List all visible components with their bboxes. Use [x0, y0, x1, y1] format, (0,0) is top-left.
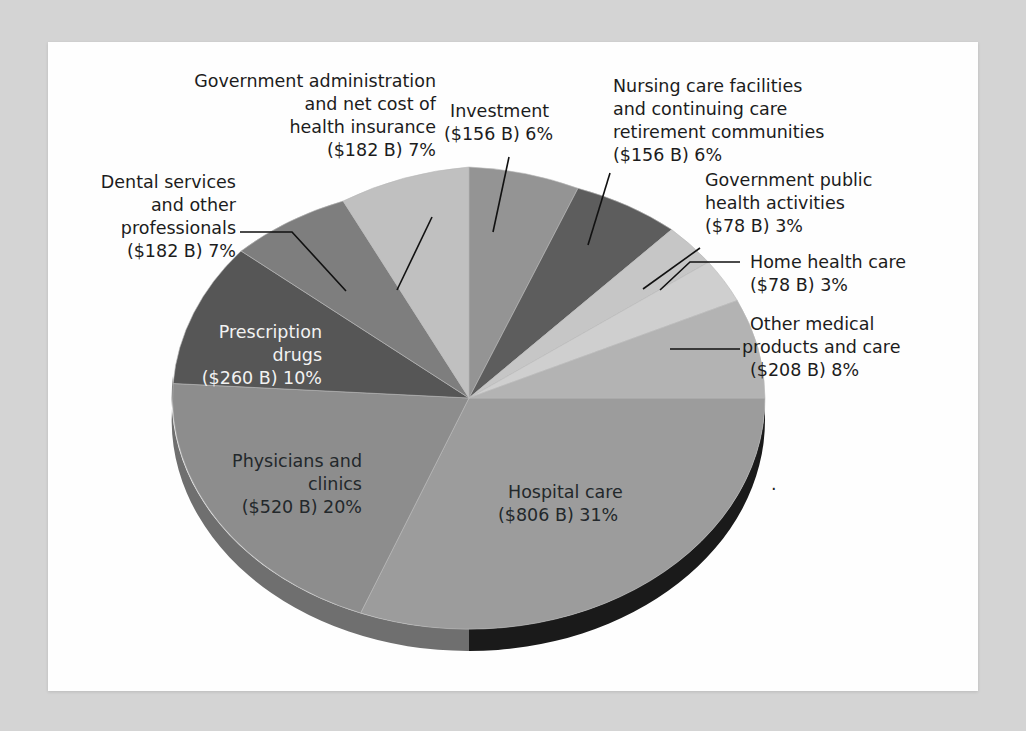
label-government-administration-line1: Government administration [194, 71, 436, 91]
figure-canvas: Government administration and net cost o… [0, 0, 1026, 731]
label-hospital-care-line1: Hospital care [508, 482, 623, 502]
label-government-public-health-line2: health activities [705, 193, 845, 213]
label-government-public-health-line3: ($78 B) 3% [705, 216, 803, 236]
label-physicians-and-clinics-line3: ($520 B) 20% [242, 497, 362, 517]
label-nursing-care-facilities-line4: ($156 B) 6% [613, 145, 722, 165]
label-prescription-drugs-line2: drugs [272, 345, 322, 365]
label-dental-services-line3: professionals [121, 218, 236, 238]
label-government-administration-line4: ($182 B) 7% [327, 140, 436, 160]
label-government-administration-line2: and net cost of [304, 94, 436, 114]
label-prescription-drugs-line1: Prescription [219, 322, 322, 342]
label-dental-services-line4: ($182 B) 7% [127, 241, 236, 261]
speck-artifact: · [771, 479, 777, 499]
label-nursing-care-facilities: Nursing care facilities and continuing c… [613, 76, 824, 165]
label-dental-services-line1: Dental services [101, 172, 236, 192]
label-nursing-care-facilities-line3: retirement communities [613, 122, 824, 142]
label-investment: Investment ($156 B) 6% [444, 101, 553, 144]
label-physicians-and-clinics-line2: clinics [308, 474, 362, 494]
label-hospital-care-line2: ($806 B) 31% [498, 505, 618, 525]
label-physicians-and-clinics-line1: Physicians and [232, 451, 362, 471]
label-nursing-care-facilities-line1: Nursing care facilities [613, 76, 802, 96]
label-government-administration-line3: health insurance [289, 117, 436, 137]
label-other-medical-products: Other medical products and care ($208 B)… [742, 314, 900, 380]
pie-chart: Government administration and net cost o… [0, 0, 1026, 731]
label-prescription-drugs-line3: ($260 B) 10% [202, 368, 322, 388]
label-home-health-care-line2: ($78 B) 3% [750, 275, 848, 295]
label-other-medical-products-line1: Other medical [750, 314, 874, 334]
label-dental-services-line2: and other [151, 195, 237, 215]
label-investment-line2: ($156 B) 6% [444, 124, 553, 144]
label-other-medical-products-line3: ($208 B) 8% [750, 360, 859, 380]
label-dental-services: Dental services and other professionals … [101, 172, 237, 261]
label-other-medical-products-line2: products and care [742, 337, 900, 357]
label-home-health-care-line1: Home health care [750, 252, 906, 272]
label-government-administration: Government administration and net cost o… [194, 71, 437, 160]
label-nursing-care-facilities-line2: and continuing care [613, 99, 787, 119]
label-government-public-health: Government public health activities ($78… [705, 170, 872, 236]
pie-slices [173, 167, 765, 629]
label-government-public-health-line1: Government public [705, 170, 872, 190]
label-investment-line1: Investment [450, 101, 549, 121]
label-home-health-care: Home health care ($78 B) 3% [750, 252, 906, 295]
